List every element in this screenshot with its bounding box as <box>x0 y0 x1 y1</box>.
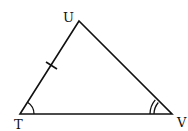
angle-t-arc <box>28 102 35 114</box>
vertex-label-t: T <box>14 118 23 131</box>
triangle-tuv <box>20 21 172 114</box>
triangle-figure <box>0 0 188 131</box>
angle-v-arc-inner <box>154 103 158 115</box>
vertex-label-u: U <box>63 11 74 24</box>
triangle-diagram: U T V <box>0 0 188 131</box>
vertex-label-v: V <box>177 116 186 129</box>
